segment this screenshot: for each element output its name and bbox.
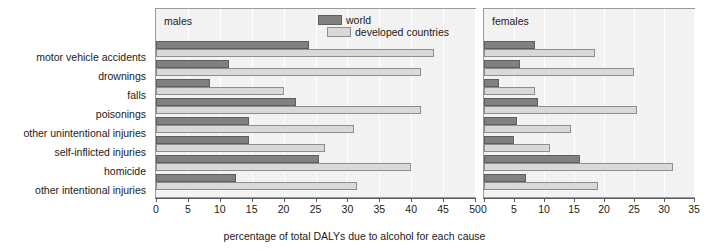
x-tick (475, 198, 476, 202)
x-tick-label: 30 (658, 203, 670, 215)
legend-swatch-developed-countries-icon (327, 27, 351, 37)
x-tick-label: 0 (481, 203, 487, 215)
bar-group (484, 136, 694, 155)
x-tick-label: 35 (373, 203, 385, 215)
category-label: poisonings (96, 109, 146, 120)
x-tick (188, 198, 189, 202)
category-label: homicide (104, 166, 146, 177)
bar-world (484, 79, 499, 87)
x-tick (514, 198, 515, 202)
bar-world (156, 174, 236, 182)
legend-swatch-world-icon (318, 15, 342, 25)
category-label: self-inflicted injuries (54, 147, 146, 158)
x-tick (484, 198, 485, 202)
bar-group (484, 60, 694, 79)
x-axis-title: percentage of total DALYs due to alcohol… (0, 230, 709, 242)
x-tick (220, 198, 221, 202)
x-tick (604, 198, 605, 202)
x-tick-label: 0 (153, 203, 159, 215)
bar-group (156, 136, 475, 155)
category-label: falls (127, 90, 146, 101)
bar-group (484, 155, 694, 174)
plot-area-females (484, 41, 694, 199)
bar-developed-countries (156, 144, 325, 152)
bar-group (156, 117, 475, 136)
gridline (694, 9, 695, 197)
x-tick-label: 20 (278, 203, 290, 215)
bar-developed-countries (484, 144, 550, 152)
x-tick-label: 10 (538, 203, 550, 215)
bar-developed-countries (156, 182, 357, 190)
bar-world (156, 155, 319, 163)
bar-world (484, 155, 580, 163)
plot-area-males (156, 41, 475, 199)
x-tick (634, 198, 635, 202)
x-tick-label: 20 (598, 203, 610, 215)
x-tick (156, 198, 157, 202)
bar-world (484, 60, 520, 68)
bar-world (484, 174, 526, 182)
x-tick (574, 198, 575, 202)
bar-developed-countries (484, 106, 637, 114)
bar-world (484, 41, 535, 49)
bar-developed-countries (484, 163, 673, 171)
bar-developed-countries (484, 182, 598, 190)
panel-title-females: females (492, 15, 529, 27)
x-tick (694, 198, 695, 202)
bar-developed-countries (484, 125, 571, 133)
bar-world (156, 41, 309, 49)
bar-developed-countries (156, 125, 354, 133)
x-tick-label: 45 (437, 203, 449, 215)
bar-world (156, 117, 249, 125)
bar-group (156, 98, 475, 117)
bar-developed-countries (156, 49, 434, 57)
legend-label-world: world (346, 14, 371, 26)
bar-world (484, 98, 538, 106)
category-label: motor vehicle accidents (36, 52, 146, 63)
panel-females: females (483, 8, 695, 198)
x-tick (316, 198, 317, 202)
x-tick (443, 198, 444, 202)
bar-world (156, 60, 229, 68)
category-axis-labels: motor vehicle accidentsdrowningsfallspoi… (0, 48, 150, 188)
bar-world (156, 136, 249, 144)
x-tick-label: 5 (185, 203, 191, 215)
bar-developed-countries (484, 49, 595, 57)
bar-group (156, 155, 475, 174)
bar-developed-countries (156, 68, 421, 76)
gridline (475, 9, 476, 197)
category-label: other intentional injuries (35, 185, 146, 196)
x-tick-label: 25 (628, 203, 640, 215)
bar-developed-countries (484, 87, 535, 95)
bar-developed-countries (484, 68, 634, 76)
chart-root: motor vehicle accidentsdrowningsfallspoi… (0, 0, 709, 251)
bar-group (156, 41, 475, 60)
bar-group (484, 98, 694, 117)
x-tick (664, 198, 665, 202)
x-tick-label: 15 (246, 203, 258, 215)
bar-group (156, 174, 475, 193)
x-tick-label: 35 (688, 203, 700, 215)
x-tick (544, 198, 545, 202)
x-tick (347, 198, 348, 202)
x-tick-label: 30 (342, 203, 354, 215)
category-label: drownings (98, 71, 146, 82)
bar-developed-countries (156, 106, 421, 114)
x-tick-label: 15 (568, 203, 580, 215)
bar-developed-countries (156, 163, 411, 171)
x-tick-label: 25 (310, 203, 322, 215)
bar-developed-countries (156, 87, 284, 95)
bar-group (484, 117, 694, 136)
bar-world (156, 98, 296, 106)
x-tick-label: 50 (469, 203, 481, 215)
x-tick-label: 10 (214, 203, 226, 215)
x-tick (284, 198, 285, 202)
x-tick (411, 198, 412, 202)
x-tick-label: 5 (511, 203, 517, 215)
panel-title-males: males (164, 15, 192, 27)
bar-group (484, 79, 694, 98)
x-tick-label: 40 (405, 203, 417, 215)
bar-world (156, 79, 210, 87)
bar-group (484, 174, 694, 193)
x-axis-females: 05101520253035 (483, 198, 695, 199)
